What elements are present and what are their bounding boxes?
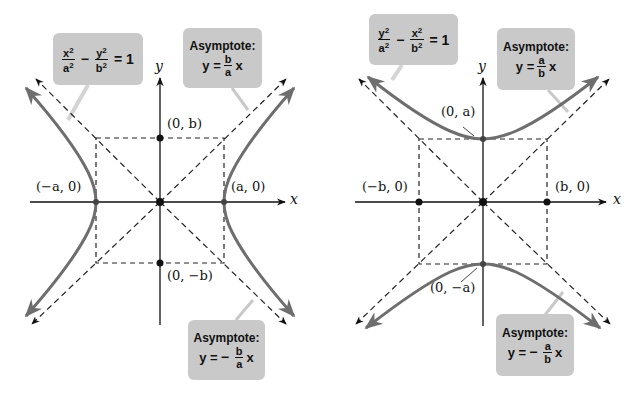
center-point — [156, 198, 164, 206]
vertex-top-point — [480, 136, 486, 142]
co-vertex-top-label: (0, b) — [167, 116, 202, 131]
vertex-left-point — [93, 199, 99, 205]
co-vertex-left-label: (−b, 0) — [362, 179, 408, 194]
vertex-top-label: (0, a) — [441, 104, 475, 119]
vertex-bottom-label: (0, −a) — [430, 280, 475, 295]
asymptote-callout-positive: Asymptote: y = ab x — [497, 28, 575, 90]
vertex-left-label: (−a, 0) — [36, 179, 81, 194]
vertex-bottom-point — [480, 261, 486, 267]
co-vertex-right-label: (b, 0) — [555, 179, 590, 194]
vertex-right-point — [221, 199, 227, 205]
left-diagram — [26, 78, 294, 325]
asymptote-line — [483, 79, 609, 202]
y-axis-label: y — [478, 58, 486, 74]
co-vertex-bottom-label: (0, −b) — [167, 268, 213, 283]
vertex-right-label: (a, 0) — [231, 179, 265, 194]
equation-pointer — [392, 65, 402, 80]
equation-callout-horizontal: x2a2 − y2b2 = 1 — [53, 33, 143, 85]
center-point — [479, 198, 487, 206]
co-vertex-left-point — [416, 199, 423, 206]
asymptote-pointer-top — [232, 88, 248, 110]
right-diagram — [355, 65, 610, 328]
co-vertex-right-point — [544, 199, 551, 206]
asymptote-pointer-bottom — [236, 300, 253, 320]
asymptote-callout-negative: Asymptote: y = − ab x — [496, 314, 574, 376]
co-vertex-top-point — [157, 135, 164, 142]
asymptote-callout-positive: Asymptote: y = ba x — [183, 28, 262, 88]
asymptote-line — [160, 79, 286, 202]
vertex-top-leader — [463, 127, 474, 136]
x-axis-label: x — [613, 191, 621, 207]
co-vertex-bottom-point — [157, 260, 164, 267]
asymptote-callout-negative: Asymptote: y = − ba x — [188, 320, 265, 380]
equation-callout-vertical: y2a2 − x2b2 = 1 — [369, 14, 458, 65]
x-axis-label: x — [290, 191, 298, 207]
equation-pointer — [68, 85, 88, 120]
y-axis-label: y — [155, 58, 163, 74]
